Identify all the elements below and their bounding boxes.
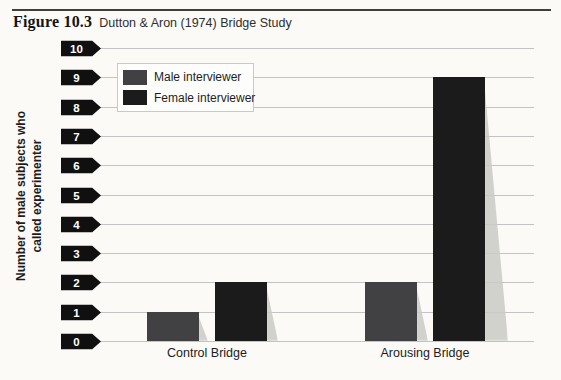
legend-row: Male interviewer [123,70,253,85]
bar-female-interviewer-control-bridge [215,282,267,341]
y-axis-tick: 0 [61,333,101,350]
y-axis-tick: 2 [61,274,101,291]
x-axis-category-label: Control Bridge [127,346,287,360]
y-axis-title-line: called experimenter [29,81,45,311]
gridline [100,48,534,49]
bar-shadow [198,315,208,341]
figure-page: Figure 10.3 Dutton & Aron (1974) Bridge … [0,0,561,380]
y-axis-tick: 10 [61,40,101,57]
bar-shadow [266,285,278,341]
bar-male-interviewer-arousing-bridge [365,282,417,341]
y-axis-title-line: Number of male subjects who [13,81,29,311]
y-axis-tick: 4 [61,216,101,233]
y-axis-tick: 6 [61,157,101,174]
legend-swatch [123,90,147,105]
gridline [100,341,534,342]
legend: Male interviewerFemale interviewer [117,63,254,112]
legend-label: Male interviewer [154,70,241,84]
y-axis-tick: 9 [61,69,101,86]
bar-shadow [484,80,508,341]
legend-label: Female interviewer [154,91,255,105]
bar-female-interviewer-arousing-bridge [433,77,485,341]
bar-male-interviewer-control-bridge [147,312,199,341]
y-axis-tick: 1 [61,304,101,321]
y-axis-title: Number of male subjects whocalled experi… [13,81,47,311]
bar-shadow [416,285,428,341]
y-axis-tick: 7 [61,128,101,145]
y-axis-tick: 8 [61,99,101,116]
legend-row: Female interviewer [123,90,253,105]
bar-chart: Number of male subjects whocalled experi… [0,0,561,380]
y-axis-tick: 5 [61,187,101,204]
legend-swatch [123,70,147,85]
y-axis-tick: 3 [61,245,101,262]
x-axis-category-label: Arousing Bridge [345,346,505,360]
